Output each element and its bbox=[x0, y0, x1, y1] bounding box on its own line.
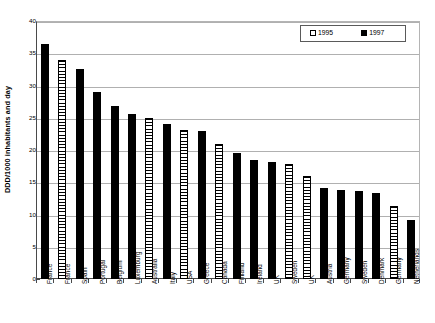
x-axis-label-text: Finland bbox=[239, 263, 245, 284]
x-axis-label-text: Netherlands bbox=[414, 249, 420, 284]
y-tick-label-30: 30 bbox=[20, 82, 36, 88]
x-axis-label-text: Germany bbox=[344, 257, 350, 284]
legend-swatch-1997-icon bbox=[361, 30, 367, 36]
x-axis-label-text: Luxemburg bbox=[135, 251, 141, 284]
legend-label-1995: 1995 bbox=[318, 30, 333, 37]
x-axis-label-text: Portugal bbox=[100, 260, 106, 284]
x-tick-mark-0 bbox=[36, 279, 37, 283]
y-tick-label-15: 15 bbox=[20, 179, 36, 185]
x-axis-label-text: UK bbox=[309, 275, 315, 284]
y-tick-label-35: 35 bbox=[20, 50, 36, 56]
bar-france-1997 bbox=[41, 44, 49, 279]
legend-swatch-1995-icon bbox=[310, 30, 316, 36]
x-tick-mark-3 bbox=[88, 279, 89, 283]
x-axis-label-text: Germany bbox=[396, 257, 402, 284]
y-axis-title: DDD/1000 inhabitants and day bbox=[0, 0, 16, 279]
y-tick-label-10: 10 bbox=[20, 211, 36, 217]
bar-france-1995 bbox=[58, 60, 66, 279]
y-tick-label-20: 20 bbox=[20, 147, 36, 153]
x-tick-mark-16 bbox=[315, 279, 316, 283]
bar-italy-1997 bbox=[163, 124, 171, 279]
chart-legend: 1995 1997 bbox=[300, 25, 406, 42]
bar-uk-1997 bbox=[268, 162, 276, 279]
x-axis-label-text: Australia bbox=[152, 259, 158, 284]
bar-chart: DDD/1000 inhabitants and day 05101520253… bbox=[0, 0, 435, 323]
legend-entry-1995: 1995 bbox=[310, 30, 333, 37]
y-axis-title-text: DDD/1000 inhabitants and day bbox=[4, 86, 13, 193]
x-axis-label-text: Greece bbox=[204, 263, 210, 284]
x-tick-mark-14 bbox=[280, 279, 281, 283]
bars-layer bbox=[36, 21, 420, 279]
x-axis-labels: FranceFranceSpainPortugalBelgiumLuxembur… bbox=[36, 284, 420, 323]
bar-greece-1997 bbox=[198, 131, 206, 279]
y-tick-label-25: 25 bbox=[20, 115, 36, 121]
x-axis-label-text: UK bbox=[274, 275, 280, 284]
x-axis-label-text: Austria bbox=[327, 264, 333, 284]
y-axis-ticks: 0510152025303540 bbox=[16, 0, 36, 323]
bar-canada-1995 bbox=[215, 144, 223, 279]
bar-finland-1997 bbox=[233, 153, 241, 279]
x-axis-label-text: Canada bbox=[222, 261, 228, 284]
legend-entry-1997: 1997 bbox=[361, 30, 384, 37]
x-tick-mark-5 bbox=[123, 279, 124, 283]
x-axis-label-text: Sweden bbox=[362, 261, 368, 284]
y-tick-label-40: 40 bbox=[20, 18, 36, 24]
bar-australia-1995 bbox=[145, 118, 153, 279]
x-axis-label-text: Denmark bbox=[379, 258, 385, 284]
x-axis-label-text: Spain bbox=[82, 267, 88, 284]
bar-usa-1995 bbox=[180, 130, 188, 279]
x-axis-label-text: France bbox=[47, 264, 53, 284]
x-axis-label-text: Belgium bbox=[117, 260, 123, 284]
bar-belgium-1997 bbox=[111, 106, 119, 279]
x-tick-mark-1 bbox=[53, 279, 54, 283]
x-axis-label-text: France bbox=[65, 264, 71, 284]
y-tick-label-5: 5 bbox=[20, 244, 36, 250]
bar-uk-1995 bbox=[303, 176, 311, 279]
x-tick-mark-12 bbox=[245, 279, 246, 283]
y-tick-label-0: 0 bbox=[20, 276, 36, 282]
bar-portugal-1997 bbox=[93, 92, 101, 279]
x-tick-mark-10 bbox=[211, 279, 212, 283]
bar-spain-1997 bbox=[76, 69, 84, 279]
x-axis-label-text: Ireland bbox=[257, 264, 263, 284]
x-axis-label-text: USA bbox=[187, 271, 193, 284]
legend-label-1997: 1997 bbox=[369, 30, 384, 37]
x-axis-label-text: Italy bbox=[170, 272, 176, 284]
bar-ireland-1997 bbox=[250, 160, 258, 279]
x-axis-label-text: Sweden bbox=[292, 261, 298, 284]
x-tick-mark-21 bbox=[403, 279, 404, 283]
